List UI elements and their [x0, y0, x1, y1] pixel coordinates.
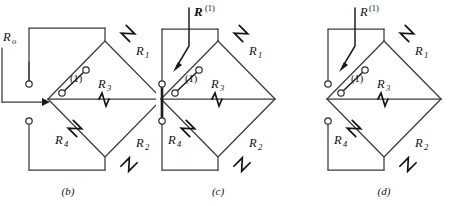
resistor-r2-zigzag-d	[400, 156, 416, 172]
label-r3-subscript-d: 3	[385, 83, 390, 93]
resistor-r1-zigzag-d	[399, 25, 415, 41]
bridge-arm-upper-right-d	[384, 41, 441, 99]
label-r1-base-d: R	[414, 44, 423, 58]
panel-b-diagram: R o (1) R 1 R 2 R 3 R 4 (b)	[0, 0, 156, 206]
label-r4-subscript-c: 4	[177, 139, 182, 149]
bridge-arm-upper-left	[48, 41, 105, 99]
panel-b: R o (1) R 1 R 2 R 3 R 4 (b)	[0, 0, 156, 206]
label-r3-subscript-c: 3	[219, 83, 224, 93]
node-label-1-c: (1)	[185, 73, 198, 85]
label-r1: R 1	[135, 44, 149, 60]
source-terminal-lower-c[interactable]	[159, 118, 165, 124]
label-r3: R 3	[97, 77, 111, 93]
label-r4-c: R 4	[167, 133, 182, 149]
bridge-arm-lower-right-c	[218, 99, 275, 157]
label-r3-base-c: R	[210, 77, 219, 91]
label-r1-subscript-c: 1	[258, 50, 262, 60]
panel-c-diagram: R (1) (1) R 1 R 2 R 3 R 4 (c)	[152, 0, 310, 206]
resistor-r4-zigzag-c	[180, 120, 196, 136]
resistor-r2-zigzag-c	[234, 156, 250, 172]
label-r2-base-c: R	[248, 136, 257, 150]
label-r4-base-d: R	[333, 133, 342, 147]
circuit-figure: R o (1) R 1 R 2 R 3 R 4 (b)	[0, 0, 464, 206]
bridge-arm-upper-left-c	[161, 41, 218, 99]
label-r4-base-c: R	[167, 133, 176, 147]
label-r3-d: R 3	[376, 77, 390, 93]
source-terminal-lower-d[interactable]	[325, 118, 331, 124]
label-r2-base-d: R	[414, 136, 423, 150]
label-r1-d: R 1	[414, 44, 428, 60]
label-r3-subscript: 3	[106, 83, 111, 93]
resistor-r4-zigzag	[67, 120, 83, 136]
label-source-superscript-d: (1)	[369, 3, 379, 13]
pointer-arrowhead-icon-d	[339, 62, 348, 72]
source-terminal-lower[interactable]	[26, 118, 32, 124]
label-r2-base: R	[135, 136, 144, 150]
source-terminal-upper-d[interactable]	[325, 81, 331, 87]
switch-pivot-terminal-c[interactable]	[172, 90, 178, 96]
label-r1-subscript: 1	[145, 50, 149, 60]
resistor-r1-zigzag-c	[233, 25, 249, 41]
label-r4-d: R 4	[333, 133, 348, 149]
label-r3-base-d: R	[376, 77, 385, 91]
contact-terminal-1[interactable]	[83, 67, 89, 73]
resistor-r2-zigzag	[121, 156, 137, 172]
panel-d: R (1) (1) R 1 R 2 R 3 R 4 (d)	[306, 0, 464, 206]
switch-pivot-terminal-d[interactable]	[338, 90, 344, 96]
resistor-r4-zigzag-d	[346, 120, 362, 136]
node-label-1-d: (1)	[351, 73, 364, 85]
resistor-r1-zigzag	[120, 25, 136, 41]
label-r2-d: R 2	[414, 136, 429, 152]
label-r4-subscript: 4	[64, 139, 69, 149]
label-r4: R 4	[54, 133, 69, 149]
label-source-base-c: R	[193, 4, 203, 19]
label-r1-c: R 1	[248, 44, 262, 60]
label-r1-base-c: R	[248, 44, 257, 58]
bridge-arm-upper-left-d	[327, 41, 384, 99]
label-source-base-d: R	[359, 5, 368, 19]
panel-b-caption: (b)	[62, 185, 75, 198]
label-r1-base: R	[135, 44, 144, 58]
label-source-d: R (1)	[359, 3, 379, 19]
label-ro: R o	[2, 30, 16, 46]
label-r1-subscript-d: 1	[424, 50, 428, 60]
panel-d-diagram: R (1) (1) R 1 R 2 R 3 R 4 (d)	[306, 0, 464, 206]
label-source-superscript-c: (1)	[205, 3, 215, 13]
label-r4-subscript-d: 4	[343, 139, 348, 149]
label-r2-subscript: 2	[145, 142, 150, 152]
panel-d-caption: (d)	[378, 185, 391, 198]
label-r2-subscript-d: 2	[424, 142, 429, 152]
panel-c: R (1) (1) R 1 R 2 R 3 R 4 (c)	[152, 0, 310, 206]
label-r4-base: R	[54, 133, 63, 147]
label-r3-c: R 3	[210, 77, 224, 93]
bridge-arm-lower-right-d	[384, 99, 441, 157]
switch-pivot-terminal[interactable]	[59, 90, 65, 96]
label-r2: R 2	[135, 136, 150, 152]
panel-c-caption: (c)	[212, 185, 225, 198]
label-r2-subscript-c: 2	[258, 142, 263, 152]
source-terminal-upper-c[interactable]	[159, 81, 165, 87]
pointer-leader-line-d	[343, 8, 355, 66]
label-ro-subscript: o	[12, 36, 16, 46]
source-terminal-upper[interactable]	[26, 81, 32, 87]
label-r2-c: R 2	[248, 136, 263, 152]
label-source-c: R (1)	[193, 3, 215, 19]
pointer-arrowhead-icon-c	[173, 62, 182, 72]
label-r3-base: R	[97, 77, 106, 91]
label-ro-base: R	[2, 30, 11, 44]
node-label-1: (1)	[70, 73, 83, 85]
pointer-leader-line-c	[177, 8, 189, 66]
bridge-arm-upper-right-c	[218, 41, 275, 99]
